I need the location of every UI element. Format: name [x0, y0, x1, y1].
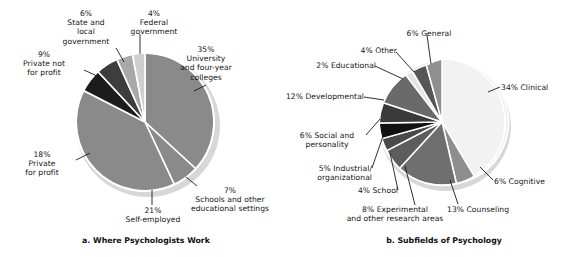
label-general-text: 6% General: [394, 29, 464, 38]
label-schools-pct: 7%: [170, 186, 290, 195]
label-cognitive: 6% Cognitive: [494, 177, 545, 186]
label-self-employed-line2: Self-employed: [108, 215, 198, 224]
label-university: 35% University and four-year colleges: [160, 45, 252, 82]
label-experimental-line2: and other research areas: [340, 214, 450, 223]
label-social: 6% Social and personality: [288, 131, 366, 149]
leader-line-developmental: [364, 97, 384, 100]
label-private-for-profit-line3: for profit: [8, 168, 76, 177]
label-private-not-for-profit: 9% Private not for profit: [6, 50, 82, 78]
leader-line-educational: [375, 66, 403, 79]
label-state-local-line4: government: [55, 37, 117, 46]
label-university-pct: 35%: [160, 45, 252, 54]
chart-panel-where-psychologists-work: 35% University and four-year colleges 7%…: [0, 0, 292, 257]
leader-line-social: [366, 119, 380, 135]
label-private-not-for-profit-pct: 9%: [6, 50, 82, 59]
label-federal-pct: 4%: [118, 9, 190, 18]
label-social-line1: 6% Social and: [288, 131, 366, 140]
label-experimental: 8% Experimental and other research areas: [340, 205, 450, 223]
label-educational-text: 2% Educational: [270, 61, 376, 70]
label-private-for-profit: 18% Private for profit: [8, 150, 76, 178]
label-federal: 4% Federal government: [118, 9, 190, 37]
label-self-employed-pct: 21%: [108, 206, 198, 215]
label-school-text: 4% School: [326, 186, 398, 195]
label-clinical: 34% Clinical: [501, 83, 548, 92]
caption-panel-a: a. Where Psychologists Work: [56, 236, 236, 245]
label-industrial-line2: organizational: [290, 173, 372, 182]
label-private-not-for-profit-line2: Private not: [6, 59, 82, 68]
leader-line-industrial: [372, 136, 383, 168]
label-other: 4% Other: [312, 46, 397, 55]
label-university-line4: colleges: [160, 73, 252, 82]
label-state-local-pct: 6%: [55, 9, 117, 18]
label-counseling: 13% Counseling: [447, 205, 509, 214]
label-schools-line2: Schools and other: [170, 195, 290, 204]
label-developmental: 12% Developmental: [262, 92, 364, 101]
label-clinical-text: 34% Clinical: [501, 83, 548, 92]
label-social-line2: personality: [288, 140, 366, 149]
label-university-line3: and four-year: [160, 63, 252, 72]
label-developmental-text: 12% Developmental: [262, 92, 364, 101]
label-federal-line3: government: [118, 27, 190, 36]
label-private-for-profit-line2: Private: [8, 159, 76, 168]
chart-panel-subfields-of-psychology: 34% Clinical 6% Cognitive 13% Counseling…: [292, 0, 585, 257]
label-experimental-line1: 8% Experimental: [340, 205, 450, 214]
label-private-for-profit-pct: 18%: [8, 150, 76, 159]
label-state-local-line2: State and: [55, 18, 117, 27]
label-school: 4% School: [326, 186, 398, 195]
label-state-local-line3: local: [55, 27, 117, 36]
label-federal-line2: Federal: [118, 18, 190, 27]
label-general: 6% General: [394, 29, 464, 38]
label-university-line2: University: [160, 54, 252, 63]
caption-panel-b: b. Subfields of Psychology: [354, 236, 534, 245]
leader-line-private-not-for-profit: [84, 70, 97, 76]
label-other-text: 4% Other: [312, 46, 397, 55]
label-cognitive-text: 6% Cognitive: [494, 177, 545, 186]
label-counseling-text: 13% Counseling: [447, 205, 509, 214]
leader-line-other: [396, 52, 414, 72]
label-educational: 2% Educational: [270, 61, 376, 70]
label-private-not-for-profit-line3: for profit: [6, 68, 82, 77]
label-self-employed: 21% Self-employed: [108, 206, 198, 224]
label-state-local: 6% State and local government: [55, 9, 117, 46]
label-industrial-line1: 5% Industrial/: [290, 164, 372, 173]
label-industrial: 5% Industrial/ organizational: [290, 164, 372, 182]
